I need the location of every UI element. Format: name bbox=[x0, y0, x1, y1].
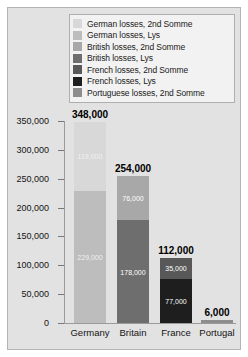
bar-segment-value-label: 119,000 bbox=[74, 153, 106, 160]
stacked-bar[interactable]: 119,000229,000 bbox=[74, 122, 106, 323]
legend-swatch-icon bbox=[73, 65, 82, 74]
bar-group-france[interactable]: 35,00077,000112,000France bbox=[160, 121, 192, 323]
bar-segment[interactable] bbox=[201, 320, 233, 323]
bar-total-label: 254,000 bbox=[115, 163, 151, 174]
y-axis-tick-label: 100,000 bbox=[16, 260, 49, 270]
bar-segment[interactable]: 178,000 bbox=[117, 220, 149, 323]
y-axis-tick-label: 300,000 bbox=[16, 145, 49, 155]
y-axis-tick: 200,000 bbox=[58, 208, 64, 209]
y-axis-line bbox=[64, 121, 65, 324]
legend-swatch-icon bbox=[73, 31, 82, 40]
y-axis-tick-label: 0 bbox=[44, 318, 49, 328]
y-axis-tick: 300,000 bbox=[58, 150, 64, 151]
x-axis-category-label: Britain bbox=[120, 327, 147, 338]
bar-group-germany[interactable]: 119,000229,000348,000Germany bbox=[74, 121, 106, 323]
bar-segment-value-label: 77,000 bbox=[160, 297, 192, 304]
x-axis-category-label: Portugal bbox=[199, 327, 234, 338]
legend-swatch-icon bbox=[73, 88, 82, 97]
legend-item-label: French losses, Lys bbox=[87, 76, 156, 86]
legend-item-label: French losses, 2nd Somme bbox=[87, 65, 188, 75]
y-axis-tick-label: 350,000 bbox=[16, 116, 49, 126]
bar-total-label: 348,000 bbox=[72, 109, 108, 120]
chart-plot-area: 050,000100,000150,000200,000250,000300,0… bbox=[64, 121, 236, 324]
legend-item: German losses, Lys bbox=[73, 30, 230, 41]
y-axis-tick: 350,000 bbox=[58, 121, 64, 122]
bar-total-label: 6,000 bbox=[204, 307, 229, 318]
stacked-bar[interactable]: 76,000178,000 bbox=[117, 176, 149, 323]
legend-item-label: British losses, 2nd Somme bbox=[87, 42, 185, 52]
y-axis-tick: 50,000 bbox=[58, 294, 64, 295]
legend-item-label: Portuguese losses, 2nd Somme bbox=[87, 88, 205, 98]
stacked-bar[interactable] bbox=[201, 320, 233, 323]
y-axis-tick: 100,000 bbox=[58, 265, 64, 266]
x-axis-category-label: France bbox=[161, 327, 191, 338]
y-axis-tick: 0 bbox=[58, 323, 64, 324]
y-axis-tick: 250,000 bbox=[58, 179, 64, 180]
bar-segment-value-label: 178,000 bbox=[117, 268, 149, 275]
legend-item: British losses, Lys bbox=[73, 53, 230, 64]
x-axis-line bbox=[64, 323, 236, 324]
y-axis-tick-label: 50,000 bbox=[21, 289, 49, 299]
legend-item-label: German losses, Lys bbox=[87, 30, 160, 40]
bar-group-portugal[interactable]: 6,000Portugal bbox=[201, 121, 233, 323]
legend-item: German losses, 2nd Somme bbox=[73, 18, 230, 29]
y-axis-tick-label: 150,000 bbox=[16, 231, 49, 241]
y-axis-tick-label: 200,000 bbox=[16, 203, 49, 213]
chart-legend: German losses, 2nd SommeGerman losses, L… bbox=[69, 14, 235, 103]
legend-swatch-icon bbox=[73, 54, 82, 63]
bar-segment[interactable]: 229,000 bbox=[74, 191, 106, 323]
bar-group-britain[interactable]: 76,000178,000254,000Britain bbox=[117, 121, 149, 323]
chart-figure: German losses, 2nd SommeGerman losses, L… bbox=[7, 7, 241, 350]
bar-segment[interactable]: 76,000 bbox=[117, 176, 149, 220]
y-axis-tick-label: 250,000 bbox=[16, 174, 49, 184]
y-axis-tick: 150,000 bbox=[58, 236, 64, 237]
legend-item: French losses, Lys bbox=[73, 76, 230, 87]
legend-item: French losses, 2nd Somme bbox=[73, 64, 230, 75]
legend-swatch-icon bbox=[73, 19, 82, 28]
bar-segment-value-label: 76,000 bbox=[117, 195, 149, 202]
legend-item: British losses, 2nd Somme bbox=[73, 41, 230, 52]
bar-total-label: 112,000 bbox=[158, 245, 194, 256]
legend-item-label: British losses, Lys bbox=[87, 53, 153, 63]
legend-swatch-icon bbox=[73, 77, 82, 86]
bar-segment-value-label: 229,000 bbox=[74, 253, 106, 260]
x-axis-category-label: Germany bbox=[70, 327, 109, 338]
bar-segment[interactable]: 77,000 bbox=[160, 279, 192, 323]
bar-segment-value-label: 35,000 bbox=[160, 265, 192, 272]
bar-segment[interactable]: 119,000 bbox=[74, 122, 106, 191]
legend-item: Portuguese losses, 2nd Somme bbox=[73, 87, 230, 98]
stacked-bar[interactable]: 35,00077,000 bbox=[160, 258, 192, 323]
legend-swatch-icon bbox=[73, 42, 82, 51]
bar-segment[interactable]: 35,000 bbox=[160, 258, 192, 278]
legend-item-label: German losses, 2nd Somme bbox=[87, 19, 192, 29]
